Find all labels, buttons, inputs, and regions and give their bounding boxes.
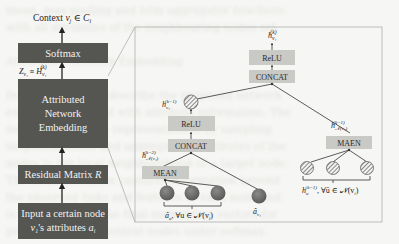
neighbor-attribute-node bbox=[160, 186, 175, 201]
neighbor-hidden-node bbox=[327, 162, 340, 175]
self-attribute-label: âv₁ bbox=[253, 207, 261, 217]
mean-label: MEAN bbox=[153, 169, 177, 178]
left-pipeline: Context vj ∈ Ci Softmax Zv₁ ≡ Hv₁(k) Att… bbox=[18, 13, 108, 239]
self-attribute-node bbox=[252, 189, 267, 204]
maen-label: MAEN bbox=[337, 139, 361, 148]
hidden-node-self bbox=[184, 95, 198, 109]
mid-relu-label: ReLU bbox=[181, 120, 201, 129]
top-output-label: hv₁(k) bbox=[268, 29, 277, 41]
input-label-line2: v1's attributes ai bbox=[31, 222, 96, 234]
embedding-label-line3: Embedding bbox=[39, 122, 88, 133]
neighbor-hidden-node bbox=[301, 162, 314, 175]
bottom-left-label: âu, ∀u ∈ 𝒩(vi) bbox=[165, 211, 213, 221]
embedding-label-line2: Network bbox=[45, 108, 82, 119]
residual-matrix-label: Residual Matrix R bbox=[25, 169, 103, 180]
hidden-neighbor-brace bbox=[303, 176, 370, 183]
z-equivalence-label: Zv₁ ≡ Hv₁(k) bbox=[19, 64, 47, 77]
mid-concat-label: CONCAT bbox=[175, 142, 207, 151]
left-hidden-label: hv₁(k−1) bbox=[162, 99, 177, 110]
input-label-line1: Input a certain node bbox=[21, 208, 105, 219]
bottom-right-label: hū(k−1), ∀ū ∈ 𝒩(vi) bbox=[302, 185, 359, 196]
neighbor-hidden-node bbox=[361, 162, 374, 175]
neighbor-brace bbox=[164, 202, 221, 209]
neighbor-attribute-node bbox=[211, 186, 226, 201]
right-hidden-label: h𝒩(v₁)(k−1) bbox=[331, 120, 348, 131]
aggregation-inset: hv₁(k) ReLU CONCAT hv₁(k−1) h𝒩(v₁)(k−1) … bbox=[142, 29, 374, 221]
softmax-label: Softmax bbox=[45, 48, 81, 59]
mean-hidden-label: h𝒩(v₁)(k−2) bbox=[142, 150, 159, 161]
diagram-canvas: Context vj ∈ Ci Softmax Zv₁ ≡ Hv₁(k) Att… bbox=[0, 0, 399, 244]
zoom-projection-lines bbox=[108, 27, 135, 222]
top-relu-label: ReLU bbox=[262, 54, 282, 63]
neighbor-attribute-node bbox=[185, 186, 200, 201]
embedding-label-line1: Attributed bbox=[41, 94, 85, 105]
top-concat-label: CONCAT bbox=[256, 73, 288, 82]
context-output-label: Context vj ∈ Ci bbox=[33, 13, 92, 24]
